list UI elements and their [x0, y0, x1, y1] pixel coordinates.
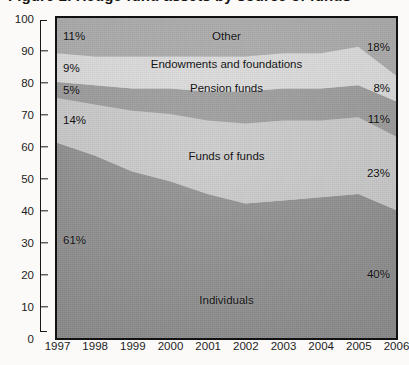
y-axis-tick-label: 70 [0, 109, 34, 121]
y-axis-tick-label: 20 [0, 269, 34, 281]
x-axis-tick-label: 2001 [195, 340, 221, 352]
band-label-pension-funds: Pension funds [190, 82, 263, 94]
start-value-funds-of-funds: 14% [63, 114, 86, 126]
y-axis-tick-label: 10 [0, 301, 34, 313]
x-axis-tick-label: 1997 [45, 340, 71, 352]
x-axis-tick-label: 2000 [158, 340, 184, 352]
end-value-individuals: 40% [367, 268, 390, 280]
x-axis-labels: 1997199819992000200120022003200420052006 [55, 340, 394, 362]
y-axis-tick-label: 30 [0, 237, 34, 249]
y-axis-labels: 0102030405060708090100 [0, 11, 34, 365]
start-value-pension-funds: 5% [63, 84, 80, 96]
y-axis-tick [40, 274, 48, 275]
x-axis-tick-label: 1998 [82, 340, 108, 352]
start-value-endowments-and-foundations: 9% [63, 62, 80, 74]
y-axis-tick [40, 82, 48, 83]
end-value-endowments-and-foundations: 8% [373, 82, 390, 94]
y-axis-line [40, 20, 41, 332]
start-value-other: 11% [63, 30, 85, 42]
x-axis-tick-label: 2006 [384, 340, 409, 352]
y-axis-tick [40, 242, 48, 243]
y-axis-tick [40, 146, 48, 147]
end-value-other: 18% [367, 41, 390, 53]
start-value-individuals: 61% [63, 234, 86, 246]
band-label-individuals: Individuals [199, 294, 253, 306]
end-value-funds-of-funds: 23% [367, 167, 390, 179]
x-axis-tick-label: 2003 [271, 340, 297, 352]
page-title: Figure 2. Hedge fund assets by source of… [8, 0, 351, 4]
band-label-other: Other [212, 30, 241, 42]
band-label-funds-of-funds: Funds of funds [188, 150, 264, 162]
y-axis-tick-label: 100 [0, 13, 34, 25]
y-axis-tick [40, 178, 48, 179]
plot-area: Individuals61%40%Funds of funds14%23%Pen… [55, 16, 398, 340]
end-value-pension-funds: 11% [368, 113, 390, 125]
y-axis-tick [40, 210, 48, 211]
x-axis-tick-label: 1999 [120, 340, 146, 352]
chart-title-strip: Figure 2. Hedge fund assets by source of… [0, 0, 409, 11]
x-axis-tick-label: 2004 [308, 340, 334, 352]
y-axis-tick [40, 114, 48, 115]
x-axis-tick-label: 2002 [233, 340, 259, 352]
y-axis-tick-label: 90 [0, 45, 34, 57]
y-axis-tick-label: 40 [0, 205, 34, 217]
y-axis-tick-label: 80 [0, 77, 34, 89]
y-axis-tick [40, 306, 48, 307]
x-axis-tick-label: 2005 [346, 340, 372, 352]
y-axis-tick-label: 0 [0, 333, 34, 345]
y-axis-tick-label: 60 [0, 141, 34, 153]
band-label-endowments-and-foundations: Endowments and foundations [151, 58, 303, 70]
y-axis-tick [40, 50, 48, 51]
y-axis-tick-label: 50 [0, 173, 34, 185]
stacked-area-chart: 0102030405060708090100 Individuals61%40%… [0, 11, 409, 365]
